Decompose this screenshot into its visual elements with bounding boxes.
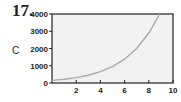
y-tick-label: 0 — [44, 79, 49, 88]
y-tick-label: 3000 — [30, 27, 48, 36]
x-tick-label: 4 — [98, 86, 103, 95]
x-tick-label: 6 — [122, 86, 127, 95]
plot-area — [52, 14, 173, 83]
y-tick-label: 2000 — [30, 45, 48, 54]
x-tick-label: 10 — [169, 86, 178, 95]
x-tick-label: 2 — [74, 86, 79, 95]
x-tick-label: 8 — [147, 86, 152, 95]
y-tick-label: 4000 — [30, 10, 48, 19]
y-tick-label: 1000 — [30, 62, 48, 71]
line-chart: 01000200030004000246810 — [0, 0, 181, 102]
